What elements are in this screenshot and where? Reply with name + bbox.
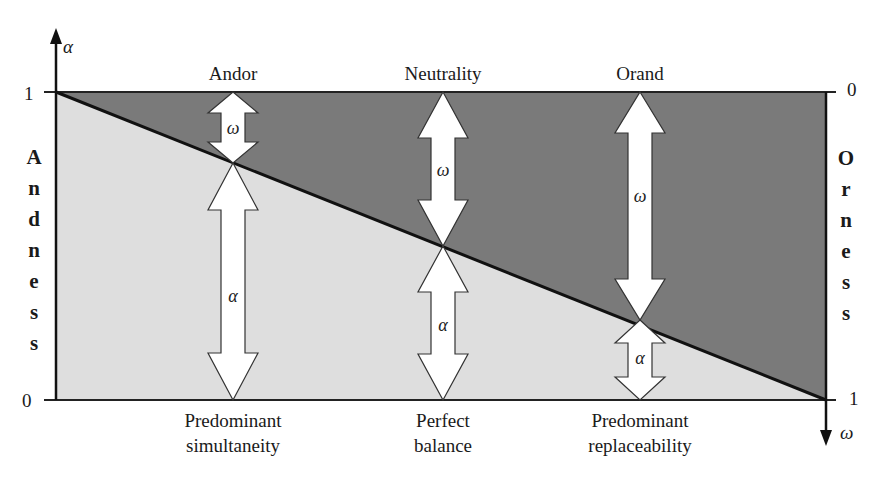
andor-omega-symbol: ω [227,118,240,139]
predominant-simultaneity-label: Predominant simultaneity [184,408,281,458]
orness-label: O r n e s s [834,143,858,329]
perfect-balance-label: Perfect balance [414,408,472,458]
orand-label: Orand [616,63,663,85]
andor-label: Andor [209,63,258,85]
left-tick-top: 1 [24,83,34,105]
alpha-axis-symbol: α [63,36,73,58]
orand-omega-symbol: ω [634,186,647,207]
right-tick-top: 0 [847,79,857,101]
neutrality-omega-symbol: ω [437,160,450,181]
andor-alpha-symbol: α [228,286,237,307]
predominant-replaceability-label: Predominant replaceability [588,408,691,458]
alpha-axis-arrowhead-icon [50,28,62,44]
neutrality-label: Neutrality [404,63,481,85]
omega-axis-arrowhead-icon [820,430,832,446]
orand-alpha-symbol: α [635,348,644,369]
right-tick-bottom: 1 [849,388,859,410]
neutrality-alpha-symbol: α [438,315,447,336]
left-tick-bottom: 0 [22,390,32,412]
andness-label: A n d n e s s [22,142,46,359]
omega-axis-symbol: ω [840,422,853,444]
